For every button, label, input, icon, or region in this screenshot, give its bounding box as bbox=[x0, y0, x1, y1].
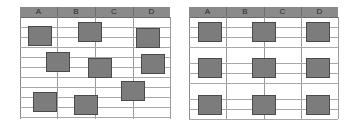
column-header-b[interactable]: B bbox=[226, 7, 264, 17]
rectangle-shape[interactable] bbox=[252, 58, 276, 78]
rectangle-shape[interactable] bbox=[198, 58, 222, 78]
spreadsheet-unaligned-shapes: ABCD bbox=[20, 7, 170, 119]
rectangle-shape[interactable] bbox=[121, 81, 145, 101]
column-header-c[interactable]: C bbox=[264, 7, 301, 17]
column-header-c[interactable]: C bbox=[95, 7, 133, 17]
header-separator bbox=[95, 7, 96, 17]
row-gridline bbox=[20, 117, 170, 118]
header-separator bbox=[226, 7, 227, 17]
header-separator bbox=[264, 7, 265, 17]
grid-left-border bbox=[20, 17, 21, 119]
column-gridline bbox=[301, 17, 302, 119]
column-header-b[interactable]: B bbox=[57, 7, 95, 17]
header-separator bbox=[133, 7, 134, 17]
row-gridline bbox=[189, 47, 338, 48]
rectangle-shape[interactable] bbox=[136, 28, 160, 48]
rectangle-shape[interactable] bbox=[33, 92, 57, 112]
rectangle-shape[interactable] bbox=[46, 52, 70, 72]
column-gridline bbox=[133, 17, 134, 119]
row-gridline bbox=[189, 83, 338, 84]
header-separator bbox=[57, 7, 58, 17]
rectangle-shape[interactable] bbox=[306, 58, 330, 78]
spreadsheet-aligned-shapes: ABCD bbox=[189, 7, 338, 119]
row-gridline bbox=[20, 87, 170, 88]
rectangle-shape[interactable] bbox=[252, 95, 276, 115]
rectangle-shape[interactable] bbox=[28, 26, 52, 46]
column-gridline bbox=[338, 17, 339, 119]
rectangle-shape[interactable] bbox=[74, 95, 98, 115]
column-gridline bbox=[170, 17, 171, 119]
rectangle-shape[interactable] bbox=[306, 95, 330, 115]
rectangle-shape[interactable] bbox=[78, 22, 102, 42]
rectangle-shape[interactable] bbox=[198, 95, 222, 115]
column-header-d[interactable]: D bbox=[133, 7, 170, 17]
column-gridline bbox=[226, 17, 227, 119]
rectangle-shape[interactable] bbox=[88, 58, 112, 78]
rectangle-shape[interactable] bbox=[198, 22, 222, 42]
column-header-a[interactable]: A bbox=[20, 7, 57, 17]
column-header-a[interactable]: A bbox=[189, 7, 226, 17]
rectangle-shape[interactable] bbox=[306, 22, 330, 42]
header-separator bbox=[301, 7, 302, 17]
grid-left-border bbox=[189, 17, 190, 119]
rectangle-shape[interactable] bbox=[252, 22, 276, 42]
column-header-d[interactable]: D bbox=[301, 7, 338, 17]
rectangle-shape[interactable] bbox=[141, 54, 165, 74]
row-gridline bbox=[189, 119, 338, 120]
